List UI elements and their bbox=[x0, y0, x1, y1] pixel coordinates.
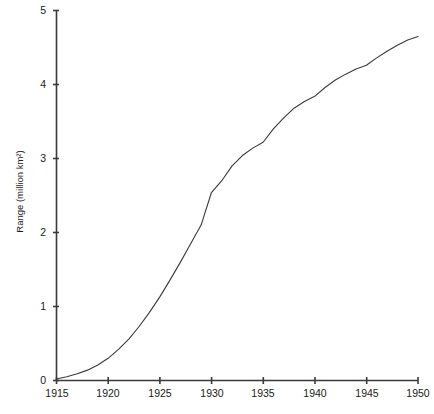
x-tick-label-1925: 1925 bbox=[140, 388, 180, 399]
x-tick-label-1945: 1945 bbox=[347, 388, 387, 399]
range-expansion-line bbox=[57, 36, 419, 379]
figure-caption bbox=[2, 404, 426, 414]
y-tick-label-1: 1 bbox=[26, 301, 46, 312]
x-tick-label-1950: 1950 bbox=[398, 388, 434, 399]
y-axis-title: Range (million km²) bbox=[14, 127, 25, 257]
x-tick-label-1920: 1920 bbox=[88, 388, 128, 399]
x-tick-label-1930: 1930 bbox=[192, 388, 232, 399]
x-tick-label-1915: 1915 bbox=[37, 388, 77, 399]
y-tick-label-2: 2 bbox=[26, 227, 46, 238]
y-tick-label-0: 0 bbox=[26, 375, 46, 386]
x-tick-label-1940: 1940 bbox=[295, 388, 335, 399]
y-tick-label-5: 5 bbox=[26, 5, 46, 16]
y-tick-label-4: 4 bbox=[26, 79, 46, 90]
x-tick-label-1935: 1935 bbox=[243, 388, 283, 399]
y-tick-label-3: 3 bbox=[26, 153, 46, 164]
